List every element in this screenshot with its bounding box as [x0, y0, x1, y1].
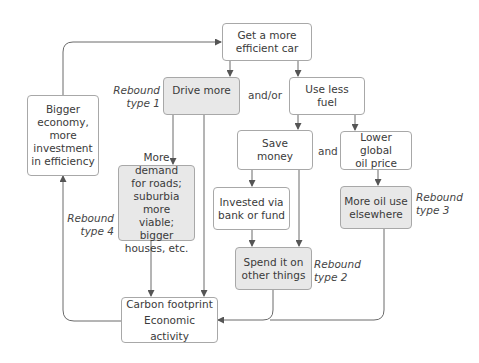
node-save-money: Savemoney	[237, 130, 313, 170]
node-more-demand: More demand for roads; suburbia more via…	[118, 165, 195, 241]
rebound-type-3-label: Rebound type 3	[416, 191, 463, 217]
node-lower-oil-price: Lower globaloil price	[340, 131, 412, 170]
rebound-type-4-label: Rebound type 4	[66, 212, 114, 238]
node-bigger-economy: Bigger economy, more investment in effic…	[27, 95, 99, 176]
arrow-spend-to-carbon	[218, 289, 273, 320]
node-drive-more: Drive more	[163, 77, 240, 115]
node-more-oil-use: More oil useelsewhere	[340, 186, 412, 229]
connector-and-or: and/or	[248, 89, 282, 102]
node-spend-other-things: Spend it onother things	[235, 247, 312, 290]
rebound-type-1-label: Rebound type 1	[112, 84, 160, 110]
node-get-efficient-car: Get a moreefficient car	[222, 23, 312, 61]
node-carbon-footprint: Carbon footprintEconomic activity	[121, 297, 218, 343]
connector-and: and	[318, 145, 338, 158]
arrow-carbon-to-economy	[63, 176, 121, 321]
node-invested: Invested viabank or fund	[213, 187, 290, 230]
node-use-less-fuel: Use lessfuel	[289, 77, 365, 115]
rebound-type-2-label: Rebound type 2	[314, 258, 361, 284]
